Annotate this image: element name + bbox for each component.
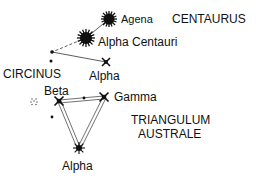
tra-minor-star-icon	[83, 97, 86, 100]
alpha-circini-label: Alpha	[89, 69, 120, 83]
agena-star-icon	[101, 11, 117, 27]
australe-label: AUSTRALE	[138, 127, 201, 141]
agena-label: Agena	[121, 13, 154, 25]
centaurus-label: CENTAURUS	[172, 12, 246, 26]
cluster-icon	[30, 98, 37, 105]
circinus-label: CIRCINUS	[3, 67, 61, 81]
alpha-centauri-label: Alpha Centauri	[98, 35, 177, 49]
circinus-beta-star-icon	[50, 60, 53, 63]
alpha-tra-label: Alpha	[62, 159, 93, 173]
triangulum-label: TRIANGULUM	[131, 113, 210, 127]
star-chart: Agena CENTAURUS Alpha Centauri CIRCINUS …	[0, 0, 260, 182]
alpha-tra-star-icon	[73, 142, 85, 154]
line-circinus-alpha	[52, 52, 106, 62]
gamma-tra-star-icon	[100, 93, 109, 102]
gamma-tra-label: Gamma	[114, 90, 157, 104]
alpha-circini-star-icon	[102, 58, 110, 66]
circinus-gamma-star-icon	[50, 50, 54, 54]
tra-epsilon-star-icon	[51, 116, 54, 119]
beta-tra-label: Beta	[44, 84, 69, 98]
triangle-outline	[58, 96, 106, 148]
alpha-centauri-star-icon	[77, 29, 95, 47]
